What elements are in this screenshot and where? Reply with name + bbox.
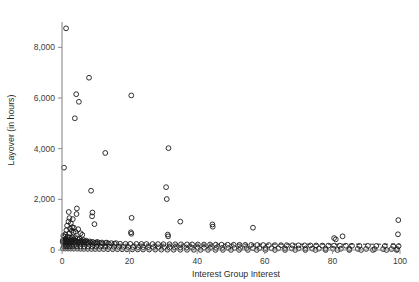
data-point — [72, 116, 77, 121]
data-points-group — [60, 26, 401, 252]
data-point — [64, 26, 69, 31]
y-tick-label: 6,000 — [34, 93, 56, 103]
x-tick-labels: 020406080100 — [60, 256, 408, 266]
data-point — [396, 232, 401, 237]
data-point — [129, 93, 134, 98]
data-point — [89, 188, 94, 193]
data-point — [178, 219, 183, 224]
data-point — [92, 222, 97, 227]
data-point — [74, 212, 79, 217]
x-tick-label: 20 — [125, 256, 135, 266]
data-point — [164, 185, 169, 190]
data-point — [77, 99, 82, 104]
data-point — [74, 206, 79, 211]
x-tick-label: 40 — [192, 256, 202, 266]
x-tick-label: 80 — [328, 256, 338, 266]
y-tick-label: 0 — [50, 245, 55, 255]
data-point — [103, 151, 108, 156]
data-point — [166, 146, 171, 151]
data-point — [340, 234, 345, 239]
y-tick-label: 4,000 — [34, 144, 56, 154]
data-point — [66, 210, 71, 215]
tick-marks-group — [58, 47, 400, 254]
data-point — [251, 225, 256, 230]
data-point — [164, 197, 169, 202]
y-tick-label: 2,000 — [34, 194, 56, 204]
data-point — [396, 218, 401, 223]
x-axis-title: Interest Group Interest — [192, 269, 281, 279]
data-point — [87, 75, 92, 80]
x-tick-label: 100 — [393, 256, 407, 266]
x-tick-label: 60 — [260, 256, 270, 266]
plot-canvas: 020406080100 02,0004,0006,0008,000 Inter… — [0, 0, 419, 282]
x-tick-label: 0 — [60, 256, 65, 266]
axes-group — [62, 22, 400, 250]
data-point — [129, 215, 134, 220]
data-point — [237, 242, 242, 247]
y-axis-title: Layover (in hours) — [6, 94, 16, 165]
data-point — [74, 92, 79, 97]
scatter-plot-figure: 020406080100 02,0004,0006,0008,000 Inter… — [0, 0, 419, 282]
y-tick-label: 8,000 — [34, 42, 56, 52]
y-tick-labels: 02,0004,0006,0008,000 — [34, 42, 56, 255]
